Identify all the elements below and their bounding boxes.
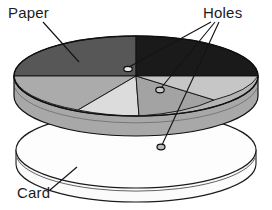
figure-container: Paper Holes Card: [0, 0, 272, 210]
hole-upper-left: [124, 66, 132, 71]
label-holes: Holes: [203, 4, 242, 21]
paper-disc: [14, 36, 258, 136]
segment-upper-left-dark: [14, 36, 136, 76]
label-paper: Paper: [8, 4, 49, 21]
hole-lower: [157, 144, 165, 150]
disc-illustration: Paper Holes Card: [0, 0, 272, 210]
label-card: Card: [17, 184, 50, 201]
hole-center-right: [156, 87, 164, 93]
